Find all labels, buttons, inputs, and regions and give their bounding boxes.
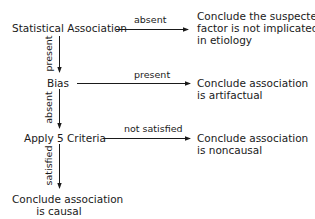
node-line: is causal xyxy=(12,205,106,217)
edge-label-assoc-present: present xyxy=(43,34,54,74)
node-conclude-artifactual: Conclude association is artifactual xyxy=(197,77,308,101)
node-line: Conclude association xyxy=(197,77,308,89)
edge-label-bias-absent: absent xyxy=(43,91,54,125)
node-apply-criteria: Apply 5 Criteria xyxy=(24,132,106,144)
edge-label-assoc-absent: absent xyxy=(134,14,166,25)
node-line: is noncausal xyxy=(197,144,308,156)
edge-label-bias-present: present xyxy=(134,69,170,80)
node-line: factor is not implicated xyxy=(197,22,315,34)
node-conclude-not-implicated: Conclude the suspected factor is not imp… xyxy=(197,10,315,46)
node-statistical-association: Statistical Association xyxy=(12,22,127,34)
node-line: Conclude the suspected xyxy=(197,10,315,22)
node-line: Conclude association xyxy=(12,193,106,205)
node-line: is artifactual xyxy=(197,89,308,101)
edge-label-criteria-satisfied: satisfied xyxy=(43,142,54,190)
node-conclude-causal: Conclude association is causal xyxy=(12,193,106,217)
node-line: in etiology xyxy=(197,34,315,46)
node-line: Conclude association xyxy=(197,132,308,144)
node-conclude-noncausal: Conclude association is noncausal xyxy=(197,132,308,156)
node-bias: Bias xyxy=(47,77,69,89)
edge-label-criteria-not-satisfied: not satisfied xyxy=(124,123,183,134)
